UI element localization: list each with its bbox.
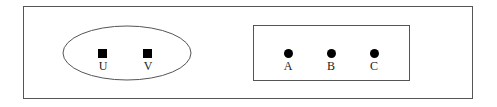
node-v-label: V: [138, 60, 158, 72]
node-a-circle-marker: [284, 49, 293, 58]
node-b-circle-marker: [327, 49, 336, 58]
node-c-circle-marker: [370, 49, 379, 58]
node-c-label: C: [364, 60, 384, 72]
node-a-label: A: [278, 60, 298, 72]
node-u-label: U: [93, 60, 113, 72]
node-b-label: B: [321, 60, 341, 72]
node-u-square-marker: [98, 49, 107, 58]
node-v-square-marker: [143, 49, 152, 58]
left-group-ellipse: [0, 0, 497, 107]
